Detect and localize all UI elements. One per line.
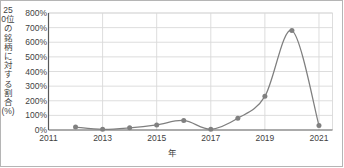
data-point-marker [316,123,321,128]
data-point-marker [100,127,105,132]
data-point-marker [181,118,186,123]
data-point-marker [235,116,240,121]
x-tick-label: 2019 [245,133,285,143]
data-point-marker [262,94,267,99]
data-point-markers [73,28,321,132]
data-point-marker [154,122,159,127]
x-tick-label: 2017 [191,133,231,143]
x-tick-label: 2021 [299,133,339,143]
x-axis-title: 年 [0,148,344,158]
data-point-marker [73,125,78,130]
x-axis-tick-labels: 201120132015201720192021 [0,133,344,147]
data-point-marker [127,125,132,130]
data-point-marker [208,127,213,132]
data-point-marker [289,28,294,33]
horizontal-gridlines [49,13,333,115]
x-tick-label: 2011 [29,133,69,143]
data-series-line [76,30,319,129]
chart-figure: 250位の銘柄に対する割合(%) 0%100%200%300%400%500%6… [0,0,344,168]
x-tick-label: 2013 [83,133,123,143]
x-tick-label: 2015 [137,133,177,143]
